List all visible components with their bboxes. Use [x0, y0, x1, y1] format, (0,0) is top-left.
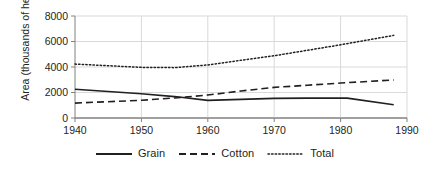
legend-swatch-solid [95, 149, 133, 159]
x-tick-label: 1950 [130, 124, 154, 136]
legend-swatch-dotted [267, 149, 305, 159]
y-tick-label: 6000 [45, 35, 69, 47]
x-tick-label: 1970 [263, 124, 287, 136]
data-series-group [75, 35, 394, 104]
x-tick-label: 1980 [329, 124, 353, 136]
x-axis-ticks [75, 118, 407, 122]
y-axis-tick-labels: 02000400060008000 [45, 10, 69, 124]
x-tick-label: 1940 [63, 124, 87, 136]
legend-item-total[interactable]: Total [267, 148, 334, 159]
line-chart-figure: 02000400060008000 1940195019601970198019… [0, 0, 429, 173]
legend-swatch-dashed [178, 149, 216, 159]
y-tick-label: 2000 [45, 86, 69, 98]
legend-label: Grain [138, 148, 165, 159]
legend-label: Cotton [221, 148, 254, 159]
series-line-total [75, 35, 394, 67]
x-axis-tick-labels: 194019501960197019801990 [63, 124, 419, 136]
y-axis-ticks [71, 16, 75, 118]
legend-label: Total [310, 148, 334, 159]
x-tick-label: 1960 [196, 124, 220, 136]
x-tick-label: 1990 [395, 124, 419, 136]
y-tick-label: 4000 [45, 61, 69, 73]
chart-plot-area: 02000400060008000 1940195019601970198019… [0, 0, 429, 148]
chart-legend: GrainCottonTotal [0, 148, 429, 159]
y-tick-label: 8000 [45, 10, 69, 22]
y-tick-label: 0 [62, 112, 68, 124]
legend-item-grain[interactable]: Grain [95, 148, 165, 159]
legend-item-cotton[interactable]: Cotton [178, 148, 254, 159]
